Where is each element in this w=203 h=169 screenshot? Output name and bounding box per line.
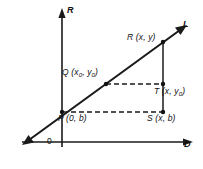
point-S-label: S (x, b) — [147, 114, 176, 123]
point-R-label: R (x, y) — [127, 33, 156, 42]
point-Q-label-name: Q (x — [62, 67, 79, 77]
point-T-label: T (x, y0) — [154, 87, 185, 96]
point-T-label-end: ) — [182, 86, 185, 96]
point-P-label: P (0, b) — [58, 114, 87, 123]
origin-label: 0 — [47, 137, 52, 146]
figure-canvas: L R (x, y) Q (x0, y0) T (x, y0) P (0, b)… — [0, 0, 203, 169]
point-Q-label-sub1: 0 — [79, 72, 83, 78]
point-T-label-name: T (x, y — [154, 86, 179, 96]
line-L-label: L — [183, 20, 189, 29]
diagram-svg — [0, 0, 203, 169]
vertical-axis-label: R — [67, 6, 74, 15]
point-marker-Q — [104, 82, 108, 86]
vertical-axis-arrowhead — [58, 8, 65, 18]
point-Q-label: Q (x0, y0) — [62, 68, 98, 77]
point-marker-R — [161, 40, 165, 44]
horizontal-axis-label: D — [184, 140, 191, 149]
point-T-label-sub: 0 — [179, 91, 183, 97]
vertical-axis-group — [58, 8, 65, 147]
point-Q-label-end: ) — [95, 67, 98, 77]
point-Q-label-sub2: 0 — [92, 72, 96, 78]
point-Q-label-mid: , y — [82, 67, 91, 77]
